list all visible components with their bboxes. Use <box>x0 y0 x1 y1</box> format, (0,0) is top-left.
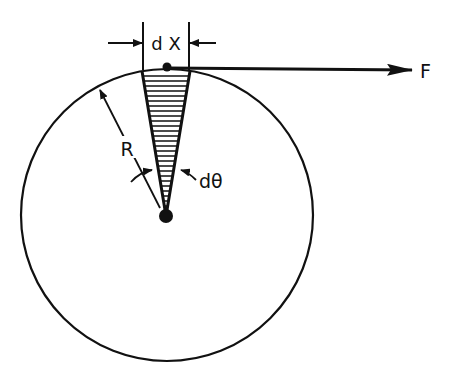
tangential-force-diagram: F d X R dθ <box>0 0 453 384</box>
differential-wedge <box>130 71 200 216</box>
force-arrow <box>167 68 412 70</box>
radius-label: R <box>120 138 133 160</box>
dx-label: d X <box>151 33 180 54</box>
dtheta-label: dθ <box>199 170 223 192</box>
force-label: F <box>420 60 431 82</box>
center-pivot <box>159 209 173 223</box>
